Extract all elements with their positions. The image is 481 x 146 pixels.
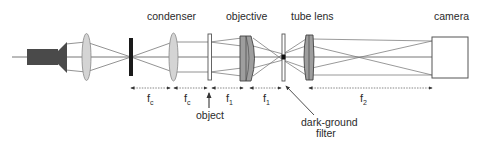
aperture-stop (129, 38, 133, 76)
lamp-icon (27, 42, 67, 73)
object-label: object (196, 110, 224, 121)
collector-lens (82, 34, 91, 81)
objective-lens (240, 36, 255, 81)
filter-label-line1: dark-ground (301, 117, 358, 128)
condenser-label: condenser (147, 11, 196, 22)
objective-label: objective (226, 11, 267, 22)
fc-label-1: fc (147, 93, 154, 106)
object-slide (208, 34, 212, 80)
tube-lens-label: tube lens (291, 11, 334, 22)
tube-lens (304, 35, 314, 80)
dark-ground-filter (282, 34, 286, 81)
f1-label-2: f1 (263, 93, 270, 106)
filter-pointer-line (286, 86, 314, 115)
camera-box (432, 37, 468, 78)
f1-label-1: f1 (226, 93, 233, 106)
condenser-lens (169, 33, 178, 81)
f2-label: f2 (360, 93, 367, 106)
fc-label-2: fc (184, 93, 191, 106)
camera-label: camera (434, 11, 469, 22)
filter-label-line2: filter (316, 128, 336, 139)
